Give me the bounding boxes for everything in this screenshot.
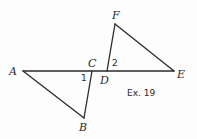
segment-AB	[23, 71, 84, 118]
angle-label-2: 2	[112, 58, 118, 68]
angle-label-1: 1	[81, 73, 87, 83]
point-label-B: B	[78, 121, 87, 134]
point-label-D: D	[99, 74, 109, 87]
point-label-E: E	[176, 68, 185, 81]
point-label-C: C	[88, 57, 97, 70]
point-label-F: F	[111, 9, 120, 22]
diagram-svg: A B C D E F 1 2 Ex. 19	[0, 0, 197, 139]
exercise-caption: Ex. 19	[127, 88, 155, 98]
point-label-A: A	[8, 65, 17, 78]
segment-FE	[115, 24, 174, 71]
geometry-figure: A B C D E F 1 2 Ex. 19	[0, 0, 197, 139]
